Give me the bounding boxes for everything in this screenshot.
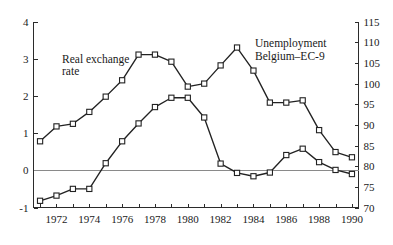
annotation-unemployment: Unemployment Belgium–EC-9 xyxy=(255,37,327,63)
right-tick-110: 110 xyxy=(364,36,381,48)
left-tick-1: 1 xyxy=(23,127,29,139)
data-point-marker xyxy=(87,109,92,114)
x-tick-1988: 1988 xyxy=(308,213,331,225)
data-point-marker xyxy=(284,152,289,157)
right-tick-80: 80 xyxy=(364,160,376,172)
data-point-marker xyxy=(300,146,305,151)
data-point-marker xyxy=(218,161,223,166)
data-point-marker xyxy=(120,78,125,83)
data-point-marker xyxy=(202,115,207,120)
data-point-marker xyxy=(152,104,157,109)
right-tick-100: 100 xyxy=(364,78,381,90)
data-point-marker xyxy=(267,100,272,105)
left-tick-3: 3 xyxy=(23,53,29,65)
data-point-marker xyxy=(317,128,322,133)
left-tick--1: -1 xyxy=(19,202,28,214)
x-tick-1974: 1974 xyxy=(78,213,101,225)
data-point-marker xyxy=(37,139,42,144)
data-point-marker xyxy=(300,98,305,103)
data-point-marker xyxy=(333,149,338,154)
data-point-marker xyxy=(185,95,190,100)
data-point-marker xyxy=(234,170,239,175)
x-tick-1972: 1972 xyxy=(45,213,67,225)
data-point-marker xyxy=(70,121,75,126)
x-tick-1976: 1976 xyxy=(111,213,134,225)
data-point-marker xyxy=(54,193,59,198)
data-point-marker xyxy=(251,174,256,179)
data-point-marker xyxy=(37,198,42,203)
chart-background xyxy=(0,0,393,245)
left-tick-2: 2 xyxy=(23,90,29,102)
data-point-marker xyxy=(349,155,354,160)
real-exchange-rate-label-line2: rate xyxy=(62,65,79,77)
right-tick-90: 90 xyxy=(364,119,376,131)
data-point-marker xyxy=(349,171,354,176)
x-tick-1986: 1986 xyxy=(275,213,298,225)
right-tick-75: 75 xyxy=(364,181,376,193)
left-tick-4: 4 xyxy=(23,16,29,28)
unemployment-label-line2: Belgium–EC-9 xyxy=(255,50,325,63)
right-tick-85: 85 xyxy=(364,140,376,152)
x-tick-1984: 1984 xyxy=(242,213,265,225)
data-point-marker xyxy=(185,84,190,89)
right-tick-70: 70 xyxy=(364,202,376,214)
data-point-marker xyxy=(54,124,59,129)
left-tick-0: 0 xyxy=(23,164,29,176)
x-tick-1982: 1982 xyxy=(210,213,232,225)
data-point-marker xyxy=(284,100,289,105)
x-tick-1978: 1978 xyxy=(144,213,167,225)
data-point-marker xyxy=(120,139,125,144)
data-point-marker xyxy=(152,52,157,57)
data-point-marker xyxy=(267,170,272,175)
data-point-marker xyxy=(251,68,256,73)
chart-figure: -101234 707580859095100105110115 1972197… xyxy=(0,0,393,245)
x-tick-1990: 1990 xyxy=(341,213,364,225)
data-point-marker xyxy=(87,186,92,191)
data-point-marker xyxy=(333,167,338,172)
data-point-marker xyxy=(218,63,223,68)
data-point-marker xyxy=(202,81,207,86)
right-tick-115: 115 xyxy=(364,16,381,28)
data-point-marker xyxy=(103,94,108,99)
right-tick-95: 95 xyxy=(364,98,376,110)
data-point-marker xyxy=(70,186,75,191)
unemployment-label-line1: Unemployment xyxy=(255,37,327,50)
line-chart: -101234 707580859095100105110115 1972197… xyxy=(0,0,393,245)
data-point-marker xyxy=(136,121,141,126)
x-tick-1980: 1980 xyxy=(177,213,200,225)
data-point-marker xyxy=(136,52,141,57)
data-point-marker xyxy=(234,45,239,50)
data-point-marker xyxy=(169,95,174,100)
data-point-marker xyxy=(169,59,174,64)
data-point-marker xyxy=(103,161,108,166)
right-tick-105: 105 xyxy=(364,57,381,69)
data-point-marker xyxy=(317,160,322,165)
